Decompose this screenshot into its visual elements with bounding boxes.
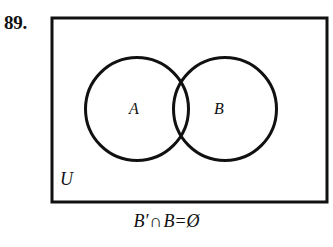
set-label-a: A [129,100,139,118]
equals-symbol: = [174,211,186,231]
empty-set-symbol: Ø [187,211,200,231]
universe-label: U [60,169,73,189]
problem-number: 89. [4,13,27,33]
venn-stage [46,12,333,208]
caption-right-operand: B [163,211,174,231]
caption-left-operand: B′ [133,211,148,231]
intersection-symbol: ∩ [148,211,163,231]
venn-graphic [46,12,333,208]
caption: B′∩B=Ø [0,210,333,232]
set-label-b: B [214,100,224,118]
venn-diagram-figure: 89. U A B B′∩B=Ø [0,0,333,247]
